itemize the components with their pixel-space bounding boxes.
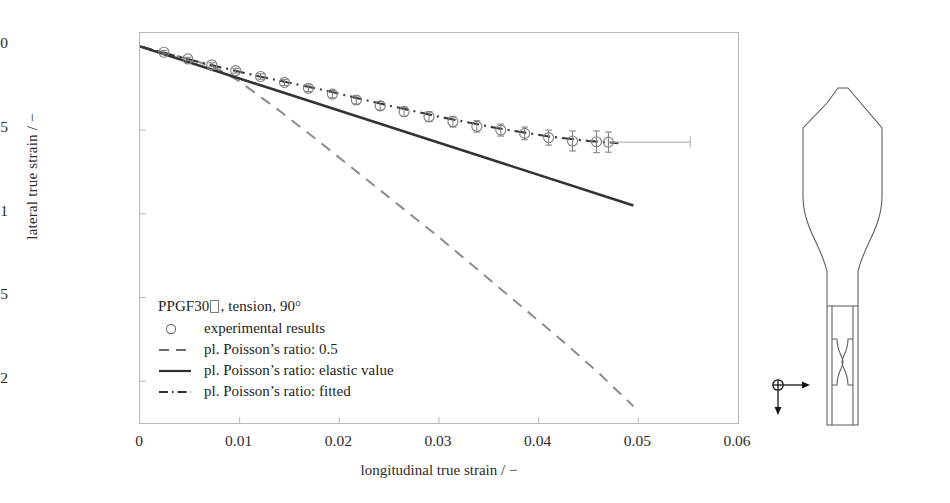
dashed-line-icon bbox=[158, 340, 204, 360]
specimen-drawing bbox=[755, 0, 950, 503]
x-tick-label: 0.02 bbox=[298, 432, 378, 450]
notch-right-profile bbox=[842, 339, 853, 385]
legend-label-experimental: experimental results bbox=[204, 321, 325, 336]
solid-line-icon bbox=[158, 361, 204, 381]
legend-item-poisson-half: pl. Poisson’s ratio: 0.5 bbox=[158, 339, 394, 360]
x-tick-label: 0 bbox=[99, 432, 179, 450]
dash-dot-line-icon bbox=[158, 382, 204, 402]
legend-label-poisson-elastic: pl. Poisson’s ratio: elastic value bbox=[204, 363, 394, 378]
legend-label-poisson-half: pl. Poisson’s ratio: 0.5 bbox=[204, 342, 338, 357]
legend-label-poisson-fitted: pl. Poisson’s ratio: fitted bbox=[204, 384, 351, 399]
x-axis-label: longitudinal true strain / − bbox=[139, 462, 739, 479]
y-tick-label: −0.005 bbox=[0, 118, 8, 136]
y-tick-label: −0.015 bbox=[0, 285, 8, 303]
legend-title-suffix: , tension, 90° bbox=[220, 298, 301, 314]
legend-title-prefix: PPGF30 bbox=[158, 298, 209, 314]
coordinate-axes-icon bbox=[773, 380, 806, 411]
notch-left-profile bbox=[832, 339, 843, 385]
y-tick-label: 0 bbox=[0, 34, 8, 52]
specimen-outline bbox=[803, 88, 882, 425]
axis-1-arrowhead bbox=[802, 382, 810, 389]
legend-item-poisson-elastic: pl. Poisson’s ratio: elastic value bbox=[158, 360, 394, 381]
y-tick-label: −0.01 bbox=[0, 202, 8, 220]
x-tick-label: 0.03 bbox=[398, 432, 478, 450]
figure-root: lateral true strain / − longitudinal tru… bbox=[0, 0, 950, 503]
y-tick-label: −0.02 bbox=[0, 369, 8, 387]
legend-item-poisson-fitted: pl. Poisson’s ratio: fitted bbox=[158, 381, 394, 402]
x-tick-label: 0.01 bbox=[199, 432, 279, 450]
chart-legend: PPGF30, tension, 90° experimental result… bbox=[158, 299, 394, 402]
x-tick-label: 0.04 bbox=[498, 432, 578, 450]
open-circle-icon bbox=[158, 319, 204, 339]
specimen-diagram: 90° 1 2 bbox=[755, 0, 950, 503]
legend-item-experimental: experimental results bbox=[158, 318, 394, 339]
axis-2-arrowhead bbox=[775, 407, 782, 415]
figure: lateral true strain / − longitudinal tru… bbox=[0, 0, 950, 503]
chart-area: lateral true strain / − longitudinal tru… bbox=[0, 0, 760, 503]
y-axis-label: lateral true strain / − bbox=[24, 67, 41, 287]
x-tick-label: 0.05 bbox=[597, 432, 677, 450]
missing-glyph-icon bbox=[210, 300, 219, 313]
legend-title: PPGF30, tension, 90° bbox=[158, 299, 394, 314]
